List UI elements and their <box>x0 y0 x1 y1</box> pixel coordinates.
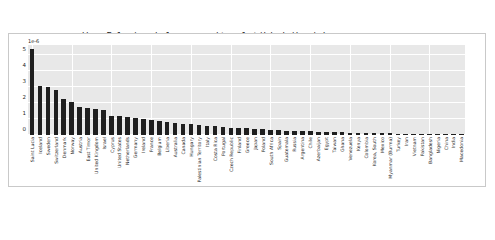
x-label-slot: France <box>147 136 155 184</box>
bar-slot <box>36 45 44 135</box>
x-label-slot: Iran <box>402 136 410 184</box>
bar <box>268 130 273 135</box>
bar-slot <box>131 45 139 135</box>
bar <box>356 133 361 135</box>
bar-slot <box>92 45 100 135</box>
bar-slot <box>298 45 306 135</box>
bar <box>411 134 416 135</box>
bar-slot <box>426 45 434 135</box>
x-tick-label: Saint Lucia <box>29 137 34 162</box>
x-tick-label: Taiwan <box>332 137 337 153</box>
x-tick-label: Vietnam <box>411 137 416 156</box>
bar-slot <box>211 45 219 135</box>
x-label-slot: Czech Republic <box>227 136 235 184</box>
x-label-slot: Turkey <box>394 136 402 184</box>
bar-slot <box>52 45 60 135</box>
x-label-slot: Cyprus <box>108 136 116 184</box>
bar <box>308 131 313 135</box>
bar-slot <box>402 45 410 135</box>
x-tick-label: Iran <box>403 137 408 146</box>
y-axis-offset-text: 1e-6 <box>28 38 39 44</box>
x-label-slot: Nigeria <box>434 136 442 184</box>
x-tick-label: Portugal <box>220 137 225 156</box>
x-label-slot: Denmark <box>60 136 68 184</box>
x-label-slot: Costa Rica <box>211 136 219 184</box>
bar-slot <box>227 45 235 135</box>
bar-slot <box>338 45 346 135</box>
bar-slot <box>155 45 163 135</box>
x-tick-label: United Kingdom <box>93 137 98 174</box>
x-tick-label: Australia <box>173 137 178 157</box>
x-label-slot: Netherlands <box>123 136 131 184</box>
bar-slot <box>362 45 370 135</box>
x-tick-label: Austria <box>77 137 82 153</box>
bar-slot <box>147 45 155 135</box>
x-tick-label: Canada <box>181 137 186 154</box>
bar-slot <box>306 45 314 135</box>
x-label-slot: Poland <box>259 136 267 184</box>
x-label-slot: Argentina <box>298 136 306 184</box>
bar-series <box>28 45 465 135</box>
bar-slot <box>418 45 426 135</box>
bar-slot <box>370 45 378 135</box>
x-label-slot: Egypt <box>322 136 330 184</box>
x-label-slot: Colombia <box>362 136 370 184</box>
bar <box>77 107 82 135</box>
bar-slot <box>163 45 171 135</box>
bar-slot <box>450 45 458 135</box>
x-label-slot: Bangladesh <box>426 136 434 184</box>
x-tick-label: Liberia <box>165 137 170 153</box>
bar-slot <box>123 45 131 135</box>
x-tick-label: Costa Rica <box>212 137 217 161</box>
x-tick-label: Finland <box>236 137 241 153</box>
x-label-slot: Hungary <box>187 136 195 184</box>
x-tick-label: Chile <box>308 137 313 149</box>
bar-slot <box>179 45 187 135</box>
bar-slot <box>275 45 283 135</box>
x-label-slot: Japan <box>251 136 259 184</box>
bar-slot <box>171 45 179 135</box>
x-tick-label: Nigeria <box>435 137 440 153</box>
bar <box>348 133 353 135</box>
x-tick-label: Ireland <box>141 137 146 153</box>
bar <box>93 109 98 135</box>
bar <box>229 128 234 135</box>
x-label-slot: Portugal <box>219 136 227 184</box>
bar-slot <box>290 45 298 135</box>
bar <box>141 119 146 135</box>
bar <box>85 108 90 135</box>
y-tick-label: 5 <box>23 46 27 52</box>
x-label-slot: Korea, South <box>370 136 378 184</box>
x-label-slot: Italy <box>203 136 211 184</box>
bar <box>46 87 51 135</box>
x-label-slot: Palestinian Territory <box>195 136 203 184</box>
bar <box>260 129 265 135</box>
x-tick-label: Cyprus <box>109 137 114 153</box>
x-label-slot: Ireland <box>139 136 147 184</box>
bar <box>419 134 424 135</box>
x-label-slot: Spain <box>275 136 283 184</box>
bar <box>435 134 440 135</box>
x-label-slot: Norway <box>68 136 76 184</box>
bar-slot <box>457 45 465 135</box>
bar-slot <box>434 45 442 135</box>
bar <box>165 122 170 135</box>
bar <box>443 134 448 135</box>
x-label-slot: Canada <box>179 136 187 184</box>
bar-slot <box>60 45 68 135</box>
bar <box>157 121 162 135</box>
x-tick-label: Israel <box>101 137 106 150</box>
y-tick-label: 1 <box>23 110 27 116</box>
x-label-slot: Greece <box>243 136 251 184</box>
x-tick-label: Ghana <box>340 137 345 152</box>
x-tick-label: Japan <box>252 137 257 150</box>
x-tick-label: Spain <box>276 137 281 150</box>
bar-slot <box>394 45 402 135</box>
bar <box>69 102 74 135</box>
bar <box>221 127 226 135</box>
x-label-slot: Pakistan <box>418 136 426 184</box>
x-tick-label: Italy <box>204 137 209 147</box>
x-label-slot: India <box>450 136 458 184</box>
x-tick-label: Myanmar (Burma) <box>387 137 392 179</box>
x-tick-label: Egypt <box>324 137 329 150</box>
